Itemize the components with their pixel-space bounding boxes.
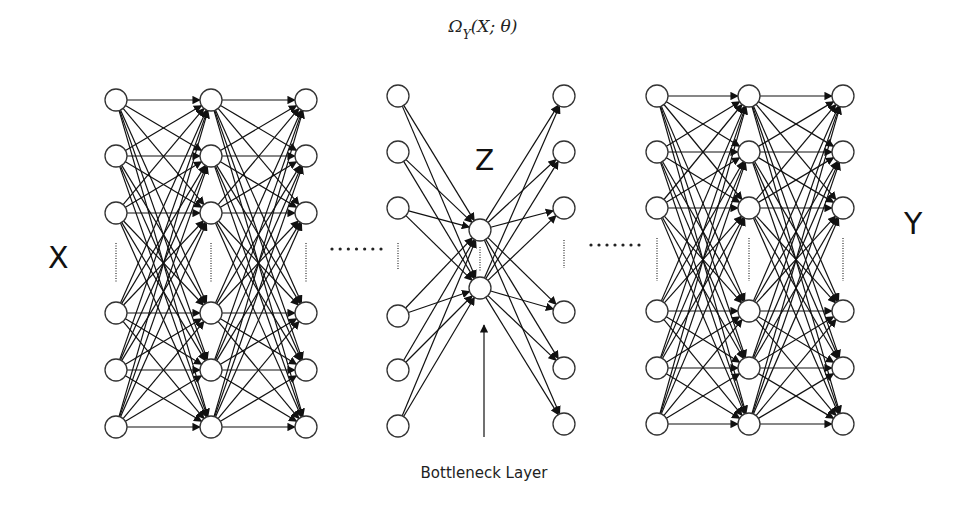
horizontal-ellipsis-dot: [379, 247, 382, 250]
encoder-node: [295, 145, 317, 167]
decoder-node: [832, 300, 854, 322]
decoder-node: [646, 85, 668, 107]
horizontal-ellipsis-dot: [597, 243, 600, 246]
encoder-node: [295, 359, 317, 381]
horizontal-ellipsis-dot: [371, 247, 374, 250]
network-nodes: [105, 85, 854, 438]
middle-right-node: [553, 141, 575, 163]
encoder-node: [295, 89, 317, 111]
decoder-node: [832, 197, 854, 219]
middle-left-node: [387, 85, 409, 107]
connection-arrow: [409, 211, 470, 227]
connection-arrow: [486, 105, 558, 220]
connection-arrow: [404, 105, 475, 220]
decoder-node: [738, 85, 760, 107]
middle-left-node: [387, 415, 409, 437]
connection-arrow: [404, 297, 475, 416]
encoder-node: [105, 89, 127, 111]
encoder-node: [105, 302, 127, 324]
horizontal-ellipsis-dot: [637, 243, 640, 246]
encoder-node: [105, 202, 127, 224]
decoder-node: [646, 197, 668, 219]
decoder-node: [646, 357, 668, 379]
middle-right-node: [553, 413, 575, 435]
autoencoder-diagram: ΩY(X; θ) X Y Z Bottleneck Layer: [0, 0, 963, 505]
middle-right-node: [553, 301, 575, 323]
middle-left-node: [387, 141, 409, 163]
connection-arrow: [484, 106, 559, 278]
bottleneck-node: [469, 219, 491, 241]
middle-left-node: [387, 359, 409, 381]
connection-arrow: [486, 297, 558, 414]
encoder-node: [105, 416, 127, 438]
decoder-node: [646, 141, 668, 163]
middle-left-node: [387, 305, 409, 327]
horizontal-ellipsis-dot: [589, 243, 592, 246]
connection-arrow: [404, 161, 475, 278]
connection-arrow: [486, 239, 559, 358]
encoder-node: [200, 202, 222, 224]
middle-left-node: [387, 197, 409, 219]
horizontal-ellipsis-dot: [629, 243, 632, 246]
decoder-node: [646, 300, 668, 322]
decoder-node: [738, 141, 760, 163]
horizontal-ellipsis-dot: [339, 247, 342, 250]
middle-right-node: [553, 357, 575, 379]
connection-arrow: [402, 240, 476, 416]
connection-arrow: [488, 296, 556, 361]
decoder-node: [738, 357, 760, 379]
encoder-node: [295, 302, 317, 324]
bottleneck-node: [469, 277, 491, 299]
connection-arrow: [486, 161, 558, 278]
horizontal-ellipsis-dot: [347, 247, 350, 250]
middle-right-node: [553, 197, 575, 219]
decoder-node: [738, 413, 760, 435]
encoder-node: [200, 89, 222, 111]
encoder-node: [200, 302, 222, 324]
decoder-node: [646, 413, 668, 435]
encoder-node: [295, 416, 317, 438]
decoder-node: [738, 300, 760, 322]
middle-right-node: [553, 85, 575, 107]
decoder-node: [832, 141, 854, 163]
connection-arrow: [484, 240, 559, 414]
horizontal-ellipsis-dot: [621, 243, 624, 246]
decoder-node: [832, 85, 854, 107]
decoder-node: [738, 197, 760, 219]
encoder-node: [200, 359, 222, 381]
decoder-node: [832, 357, 854, 379]
horizontal-ellipsis-dot: [363, 247, 366, 250]
encoder-node: [105, 359, 127, 381]
latent-label-z: Z: [475, 144, 494, 177]
output-label-y: Y: [903, 206, 923, 241]
bottleneck-caption: Bottleneck Layer: [421, 464, 549, 482]
horizontal-ellipsis-dot: [613, 243, 616, 246]
diagram-title: ΩY(X; θ): [448, 16, 518, 42]
input-label-x: X: [48, 240, 69, 275]
horizontal-ellipsis-dot: [330, 247, 333, 250]
encoder-node: [200, 416, 222, 438]
connection-arrow: [402, 106, 475, 278]
connection-arrow: [404, 239, 475, 360]
horizontal-ellipsis-dot: [605, 243, 608, 246]
decoder-node: [832, 413, 854, 435]
horizontal-ellipsis-dot: [355, 247, 358, 250]
encoder-node: [200, 145, 222, 167]
encoder-node: [105, 145, 127, 167]
encoder-node: [295, 202, 317, 224]
